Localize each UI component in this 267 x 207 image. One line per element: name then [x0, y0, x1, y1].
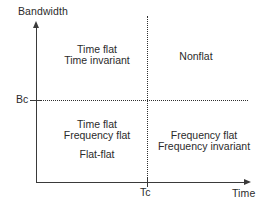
x-axis-tick-label-tc: Tc: [140, 186, 151, 198]
x-axis-arrow-icon: [244, 179, 251, 185]
y-axis-tick-label-bc: Bc: [16, 93, 28, 105]
quadrant-bottom-left-line-2: Frequency flat: [64, 130, 131, 141]
x-axis-line: [36, 182, 248, 183]
x-axis-title: Time: [232, 187, 255, 199]
quadrant-bottom-left-line-3: Flat-flat: [64, 149, 131, 160]
diagram-canvas: Bandwidth Time Bc Tc Time flat Time inva…: [0, 0, 267, 207]
quadrant-label-bottom-right: Frequency flat Frequency invariant: [158, 130, 250, 152]
quadrant-top-left-line-2: Time invariant: [64, 55, 130, 66]
quadrant-bottom-right-line-2: Frequency invariant: [158, 141, 250, 152]
bc-threshold-dotted-line: [30, 100, 248, 101]
quadrant-label-bottom-left: Time flat Frequency flat Flat-flat: [64, 119, 131, 160]
y-axis-line: [36, 27, 37, 182]
tc-threshold-dotted-line: [147, 16, 148, 182]
quadrant-label-top-left: Time flat Time invariant: [64, 44, 130, 66]
y-axis-tick-mark: [31, 100, 41, 101]
quadrant-label-top-right: Nonflat: [179, 51, 212, 62]
quadrant-top-right-line-1: Nonflat: [179, 51, 212, 62]
y-axis-title: Bandwidth: [18, 5, 68, 17]
y-axis-arrow-icon: [33, 21, 39, 28]
